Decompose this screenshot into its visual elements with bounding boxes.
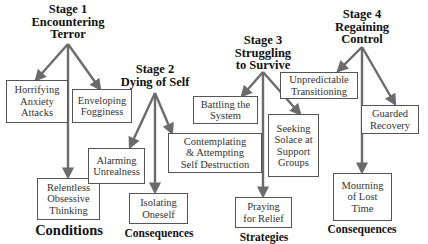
box-line: Solace at bbox=[274, 134, 312, 146]
box-line: Time bbox=[342, 203, 384, 215]
title-line: Stage 4 bbox=[312, 8, 412, 21]
box-alarming-unrealness: Alarming Unrealness bbox=[88, 148, 145, 184]
arrow-stage1-horrifying bbox=[36, 44, 68, 80]
box-line: Transitioning bbox=[289, 86, 348, 98]
box-line: System bbox=[201, 110, 250, 122]
box-praying-for-relief: Praying for Relief bbox=[235, 197, 292, 228]
box-line: Unrealness bbox=[93, 166, 140, 178]
title-line: Stage 2 bbox=[105, 63, 205, 76]
box-seeking-solace: Seeking Solace at Support Groups bbox=[268, 114, 319, 177]
title-line: Control bbox=[312, 33, 412, 46]
box-line: Guarded bbox=[370, 108, 410, 120]
box-line: Alarming bbox=[93, 155, 140, 167]
box-relentless-obsessive-thinking: Relentless Obsessive Thinking bbox=[37, 178, 100, 220]
box-line: Thinking bbox=[47, 205, 90, 217]
box-line: & Attempting bbox=[181, 147, 250, 159]
category-consequences-stage4: Consequences bbox=[321, 223, 403, 235]
box-line: Support bbox=[274, 146, 312, 158]
box-line: Anxiety bbox=[15, 96, 60, 108]
box-line: Horrifying bbox=[15, 84, 60, 96]
category-consequences-stage2: Consequences bbox=[118, 227, 200, 239]
box-line: Fogginess bbox=[78, 106, 126, 118]
box-line: Isolating bbox=[140, 197, 177, 209]
box-unpredictable-transitioning: Unpredictable Transitioning bbox=[280, 72, 358, 99]
title-line: to Survive bbox=[213, 59, 313, 72]
box-line: Praying bbox=[243, 201, 284, 213]
box-mourning-of-lost-time: Mourning of Lost Time bbox=[333, 173, 392, 221]
title-line: Dying of Self bbox=[105, 76, 205, 89]
box-line: Unpredictable bbox=[289, 74, 348, 86]
stage-3-title: Stage 3 Struggling to Survive bbox=[213, 34, 313, 72]
arrow-stage1-enveloping bbox=[68, 44, 100, 89]
category-conditions: Conditions bbox=[30, 222, 108, 239]
box-horrifying-anxiety-attacks: Horrifying Anxiety Attacks bbox=[6, 80, 68, 123]
stage-2-title: Stage 2 Dying of Self bbox=[105, 63, 205, 88]
box-line: for Relief bbox=[243, 213, 284, 225]
stage-1-title: Stage 1 Encountering Terror bbox=[18, 3, 118, 41]
box-line: Oneself bbox=[140, 209, 177, 221]
box-line: Groups bbox=[274, 157, 312, 169]
box-isolating-oneself: Isolating Oneself bbox=[129, 193, 188, 224]
box-line: Recovery bbox=[370, 120, 410, 132]
category-strategies: Strategies bbox=[228, 231, 300, 243]
box-guarded-recovery: Guarded Recovery bbox=[361, 105, 419, 134]
box-line: of Lost bbox=[342, 191, 384, 203]
box-line: Battling the bbox=[201, 99, 250, 111]
title-line: Terror bbox=[18, 28, 118, 41]
stage-4-title: Stage 4 Regaining Control bbox=[312, 8, 412, 46]
arrow-stage2-contemplating bbox=[155, 93, 172, 133]
box-line: Attacks bbox=[15, 107, 60, 119]
arrow-stage2-alarming bbox=[130, 93, 155, 147]
box-battling-the-system: Battling the System bbox=[193, 96, 258, 124]
box-enveloping-fogginess: Enveloping Fogginess bbox=[72, 89, 132, 123]
box-contemplating-self-destruction: Contemplating & Attempting Self Destruct… bbox=[168, 133, 262, 173]
box-line: Mourning bbox=[342, 180, 384, 192]
box-line: Obsessive bbox=[47, 193, 90, 205]
title-line: Stage 1 bbox=[18, 3, 118, 16]
box-line: Self Destruction bbox=[181, 159, 250, 171]
arrow-stage4-unpredictable bbox=[338, 47, 362, 71]
arrow-stage4-guarded bbox=[362, 47, 395, 104]
box-line: Enveloping bbox=[78, 95, 126, 107]
arrow-stage3-battling bbox=[242, 72, 263, 96]
box-line: Seeking bbox=[274, 123, 312, 135]
box-line: Contemplating bbox=[181, 136, 250, 148]
title-line: Stage 3 bbox=[213, 34, 313, 47]
box-line: Relentless bbox=[47, 182, 90, 194]
